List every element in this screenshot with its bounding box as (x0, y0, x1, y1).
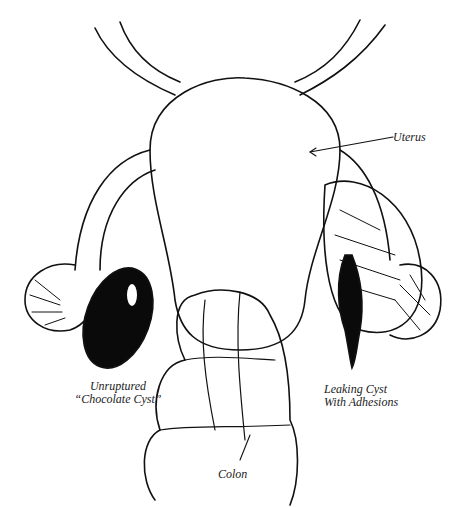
right-tube (340, 150, 390, 260)
unruptured-cyst-label: Unruptured “Chocolate Cyst” (68, 380, 168, 406)
chocolate-cyst (70, 258, 166, 378)
leaking-cyst-label: Leaking Cyst With Adhesions (324, 383, 398, 409)
left-tube-upper (95, 28, 175, 95)
unruptured-cyst-label-line2: “Chocolate Cyst” (68, 393, 168, 406)
right-ovary (324, 181, 422, 332)
right-tube-upper-inner (295, 20, 360, 82)
leaking-cyst-label-line2: With Adhesions (324, 396, 398, 409)
colon-label: Colon (218, 468, 247, 481)
uterus-label: Uterus (393, 131, 426, 144)
leaking-blood (339, 255, 362, 368)
left-tube-2 (100, 170, 155, 270)
illustration (0, 0, 459, 507)
uterus-pointer (310, 137, 393, 152)
right-tube-upper (300, 25, 385, 95)
left-tube-upper-inner (120, 22, 180, 82)
